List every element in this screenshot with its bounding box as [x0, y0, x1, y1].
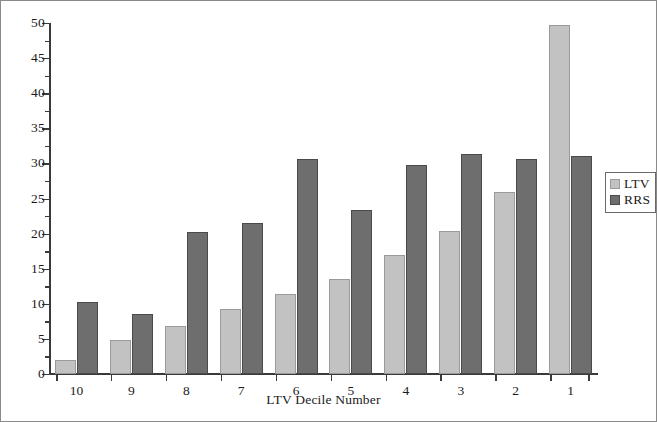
y-tick-label: 0 [38, 367, 45, 381]
x-tick [221, 374, 222, 381]
bar-group [49, 23, 598, 374]
x-tick [331, 374, 332, 381]
bar-ltv-decile-8 [165, 326, 186, 374]
y-tick-label: 5 [38, 332, 45, 346]
y-tick-label: 40 [31, 86, 45, 100]
bar-ltv-decile-5 [329, 279, 350, 374]
legend-item-ltv: LTV [610, 176, 650, 192]
x-axis-title: LTV Decile Number [49, 392, 598, 408]
y-tick-label: 30 [31, 157, 45, 171]
y-tick-label: 50 [31, 16, 45, 30]
bar-rrs-decile-9 [132, 314, 153, 374]
x-tick [550, 374, 551, 381]
bar-ltv-decile-3 [439, 231, 460, 374]
x-tick [588, 374, 589, 381]
y-tick-label: 35 [31, 122, 45, 136]
bar-rrs-decile-1 [571, 156, 592, 374]
chart-figure: 05101520253035404550 10987654321 LTV Dec… [0, 0, 657, 422]
y-tick-label: 10 [31, 297, 45, 311]
bar-rrs-decile-4 [406, 165, 427, 374]
bar-rrs-decile-5 [351, 210, 372, 374]
x-tick [111, 374, 112, 381]
bar-ltv-decile-2 [494, 192, 515, 374]
legend-item-rrs: RRS [610, 192, 650, 208]
bar-rrs-decile-6 [297, 159, 318, 375]
bar-ltv-decile-4 [384, 255, 405, 374]
chart-legend: LTV RRS [605, 172, 656, 213]
bar-rrs-decile-2 [516, 159, 537, 374]
bar-ltv-decile-10 [55, 360, 76, 374]
x-tick [495, 374, 496, 381]
y-tick-label: 15 [31, 262, 45, 276]
y-tick-label: 25 [31, 192, 45, 206]
legend-swatch-ltv-icon [610, 179, 620, 189]
bar-ltv-decile-9 [110, 340, 131, 374]
bar-rrs-decile-3 [461, 154, 482, 374]
x-tick [276, 374, 277, 381]
bar-rrs-decile-7 [242, 223, 263, 374]
x-tick [440, 374, 441, 381]
bar-ltv-decile-6 [275, 294, 296, 374]
legend-swatch-rrs-icon [610, 195, 620, 205]
x-tick [166, 374, 167, 381]
bar-ltv-decile-1 [549, 25, 570, 374]
x-tick [386, 374, 387, 381]
y-tick-label: 20 [31, 227, 45, 241]
legend-label-ltv: LTV [624, 177, 650, 191]
x-tick [56, 374, 57, 381]
legend-label-rrs: RRS [624, 193, 650, 207]
y-tick-label: 45 [31, 51, 45, 65]
bar-rrs-decile-10 [77, 302, 98, 374]
bar-rrs-decile-8 [187, 232, 208, 375]
bar-ltv-decile-7 [220, 309, 241, 374]
